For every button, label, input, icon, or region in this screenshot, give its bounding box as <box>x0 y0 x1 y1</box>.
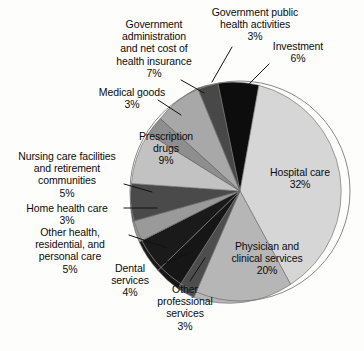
pie-chart-figure: Government public health activities 3% G… <box>0 0 364 351</box>
label-government-administration: Government administration and net cost o… <box>104 18 204 79</box>
label-prescription-drugs: Prescription drugs 9% <box>128 130 204 167</box>
label-government-public-health-activities: Government public health activities 3% <box>196 6 314 43</box>
label-other-professional-services: Other professional services 3% <box>143 283 227 332</box>
label-medical-goods: Medical goods 3% <box>80 86 184 110</box>
label-hospital-care: Hospital care 32% <box>258 166 342 190</box>
leader-investment <box>248 64 269 85</box>
leader-government-public-health <box>212 47 232 82</box>
label-investment: Investment 6% <box>256 40 340 64</box>
label-physician-clinical-services: Physician and clinical services 20% <box>215 240 319 277</box>
label-nursing-care-facilities: Nursing care facilities and retirement c… <box>2 150 132 199</box>
label-home-health-care: Home health care 3% <box>2 202 132 226</box>
